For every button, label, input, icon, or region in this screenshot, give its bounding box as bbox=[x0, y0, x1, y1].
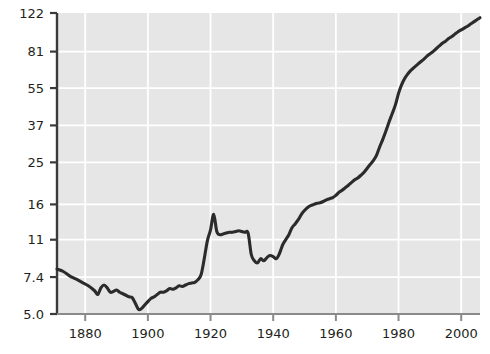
line-chart: 5.07.4111625375581122 188019001920194019… bbox=[0, 0, 490, 354]
x-tick-label: 1980 bbox=[382, 326, 415, 341]
y-tick-label: 5.0 bbox=[23, 307, 44, 322]
x-tick-label: 1960 bbox=[319, 326, 352, 341]
y-tick-label: 81 bbox=[27, 44, 44, 59]
y-tick-label: 37 bbox=[27, 118, 44, 133]
chart-container: 5.07.4111625375581122 188019001920194019… bbox=[0, 0, 490, 354]
x-tick-label: 1900 bbox=[131, 326, 164, 341]
y-tick-label: 55 bbox=[27, 81, 44, 96]
plot-area-background bbox=[57, 13, 480, 314]
y-tick-label: 25 bbox=[27, 155, 44, 170]
y-tick-label: 122 bbox=[19, 6, 44, 21]
y-tick-label: 7.4 bbox=[23, 270, 44, 285]
y-tick-label: 11 bbox=[27, 232, 44, 247]
x-tick-label: 2000 bbox=[445, 326, 478, 341]
x-tick-label: 1940 bbox=[257, 326, 290, 341]
y-tick-label: 16 bbox=[27, 197, 44, 212]
x-tick-label: 1880 bbox=[69, 326, 102, 341]
x-tick-label: 1920 bbox=[194, 326, 227, 341]
